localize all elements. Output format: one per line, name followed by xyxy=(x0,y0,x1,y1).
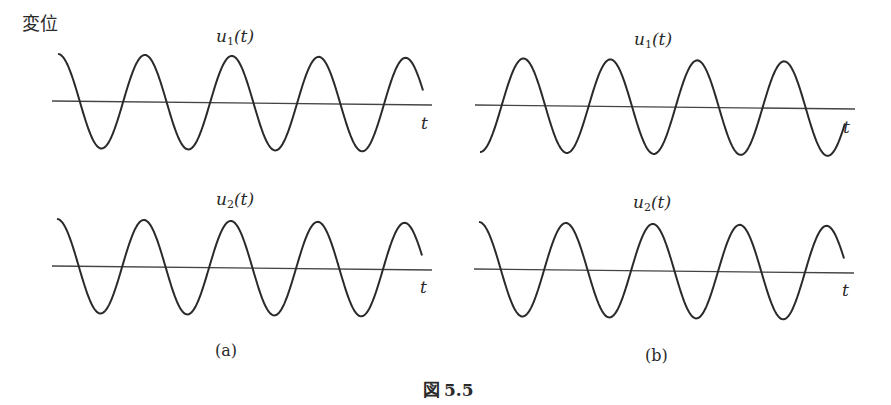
panel-b-u1-axis-label: t xyxy=(843,117,850,137)
panel-a-u1-time-axis xyxy=(52,101,432,105)
panel-b-u1-time-axis xyxy=(475,105,855,109)
figure-canvas: 変位 u1(t) t u2(t) t (a) u1(t) t u2(t) xyxy=(0,0,891,405)
y-axis-label: 変位 xyxy=(22,13,58,34)
panel-a-u2-plot: u2(t) t xyxy=(52,189,432,316)
panel-a-u2-axis-label: t xyxy=(420,277,427,297)
panel-b-u2-title: u2(t) xyxy=(633,192,671,214)
panel-b-u2-plot: u2(t) t xyxy=(474,192,854,319)
panel-b-label: (b) xyxy=(645,346,668,365)
panel-a-u2-time-axis xyxy=(52,266,432,270)
figure-caption: 図5.5 xyxy=(423,380,474,400)
panel-b-u1-title: u1(t) xyxy=(634,29,672,51)
panel-b-u2-time-axis xyxy=(474,269,854,273)
panel-a-label: (a) xyxy=(215,341,237,360)
panel-b-u1-plot: u1(t) t xyxy=(475,29,855,156)
panel-a-u2-title: u2(t) xyxy=(216,189,254,211)
panel-a-u1-axis-label: t xyxy=(421,113,428,133)
panel-a-u1-title: u1(t) xyxy=(216,26,254,48)
panel-b-u2-axis-label: t xyxy=(842,280,849,300)
panel-a-u1-plot: u1(t) t xyxy=(52,26,432,151)
